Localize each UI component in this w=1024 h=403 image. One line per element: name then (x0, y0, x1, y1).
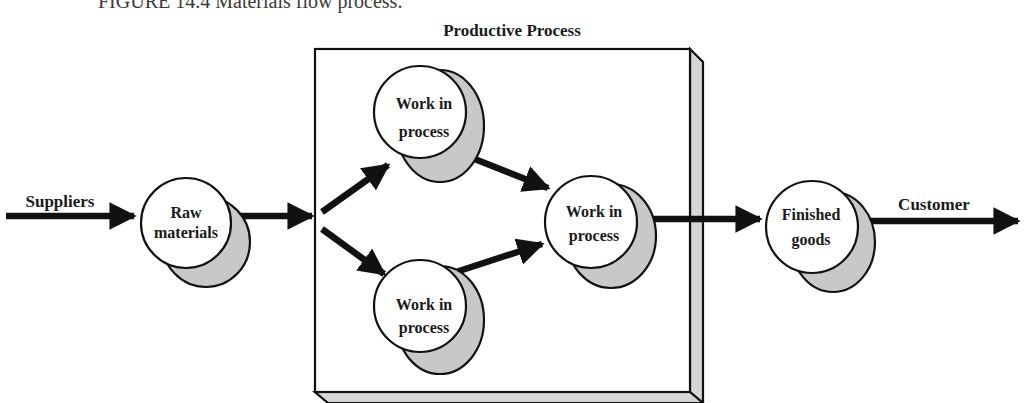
node-circle (545, 176, 637, 268)
svg-text:Work in: Work in (566, 203, 623, 220)
svg-text:process: process (399, 123, 449, 141)
node-raw-materials: Raw materials (141, 178, 250, 287)
svg-text:Finished: Finished (782, 206, 841, 223)
node-circle (766, 181, 858, 273)
svg-text:Work in: Work in (396, 95, 453, 112)
svg-text:Work in: Work in (396, 296, 453, 313)
materials-flow-diagram: FIGURE 14.4 Materials flow process. Prod… (0, 0, 1024, 403)
node-circle (141, 178, 231, 268)
box-title: Productive Process (443, 21, 581, 40)
svg-text:goods: goods (791, 231, 830, 249)
svg-text:process: process (399, 319, 449, 337)
customer-label: Customer (898, 195, 970, 214)
svg-text:process: process (569, 227, 619, 245)
svg-text:materials: materials (154, 224, 218, 241)
node-circle (374, 66, 466, 158)
figure-caption: FIGURE 14.4 Materials flow process. (98, 0, 402, 13)
svg-text:Raw: Raw (170, 204, 202, 221)
suppliers-label: Suppliers (26, 192, 95, 211)
node-finished-goods: Finished goods (766, 181, 875, 292)
